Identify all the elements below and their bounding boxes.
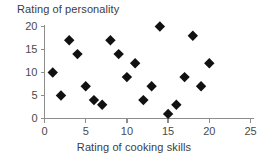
data-point: [155, 21, 165, 31]
data-point: [56, 90, 66, 100]
data-point: [48, 67, 58, 77]
scatter-plot-figure: Rating of personality 051015200510152025…: [0, 0, 268, 161]
data-point: [105, 35, 115, 45]
y-tick-label-0: 0: [18, 113, 38, 124]
data-point: [81, 81, 91, 91]
data-point: [179, 72, 189, 82]
data-point: [97, 100, 107, 110]
data-point: [72, 49, 82, 59]
x-tick-label-5: 5: [76, 126, 96, 137]
x-tick-label-20: 20: [199, 126, 219, 137]
axes-group: [45, 25, 254, 119]
y-tick-label-10: 10: [18, 67, 38, 78]
data-point: [171, 100, 181, 110]
y-tick-label-15: 15: [18, 44, 38, 55]
data-point: [130, 58, 140, 68]
data-point: [196, 81, 206, 91]
y-tick-label-20: 20: [18, 21, 38, 32]
data-point: [188, 31, 198, 41]
plot-area: 051015200510152025: [0, 0, 268, 161]
data-point: [204, 58, 214, 68]
y-tick-label-5: 5: [18, 90, 38, 101]
data-point: [138, 95, 148, 105]
x-tick-label-25: 25: [241, 126, 261, 137]
x-tick-label-15: 15: [158, 126, 178, 137]
x-axis-title: Rating of cooking skills: [0, 141, 268, 154]
data-point: [122, 72, 132, 82]
data-point: [163, 109, 173, 119]
data-point: [89, 95, 99, 105]
data-point: [146, 81, 156, 91]
x-tick-label-10: 10: [117, 126, 137, 137]
data-point: [113, 49, 123, 59]
data-markers-group: [48, 21, 215, 119]
plot-canvas: [0, 0, 268, 161]
x-tick-label-0: 0: [35, 126, 55, 137]
data-point: [64, 35, 74, 45]
